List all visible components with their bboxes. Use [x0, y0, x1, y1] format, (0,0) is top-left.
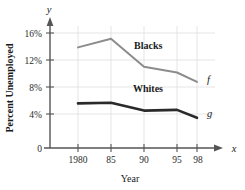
y-tick-label-4: 4% [29, 110, 42, 120]
x-tick-label-90: 90 [139, 155, 149, 165]
x-tick-label-95: 95 [172, 155, 182, 165]
function-label-f: f [207, 74, 212, 85]
x-tick-label-1980: 1980 [69, 155, 88, 165]
series-line-whites [78, 103, 197, 118]
chart-canvas: 16% 12% 8% 4% 0 1980 85 90 95 98 y x Bla… [0, 0, 245, 190]
unemployment-line-chart: 16% 12% 8% 4% 0 1980 85 90 95 98 y x Bla… [0, 0, 245, 190]
y-axis-variable: y [46, 4, 52, 15]
y-tick-label-0: 0 [37, 144, 42, 154]
y-tick-label-16: 16% [25, 29, 43, 39]
x-tick-label-98: 98 [193, 155, 203, 165]
series-annotation-whites: Whites [133, 83, 163, 94]
x-axis-title: Year [121, 173, 140, 184]
y-axis [47, 17, 54, 148]
y-tick-label-12: 12% [25, 56, 43, 66]
y-tick-label-8: 8% [29, 83, 42, 93]
function-label-g: g [207, 108, 212, 119]
series-annotation-blacks: Blacks [134, 40, 162, 51]
grid-horizontal [50, 33, 215, 114]
x-axis-variable: x [231, 143, 237, 154]
y-axis-title: Percent Unemployed [4, 43, 15, 132]
x-tick-label-85: 85 [106, 155, 116, 165]
chart-figure: 16% 12% 8% 4% 0 1980 85 90 95 98 y x Bla… [0, 0, 245, 190]
x-axis [44, 145, 223, 152]
